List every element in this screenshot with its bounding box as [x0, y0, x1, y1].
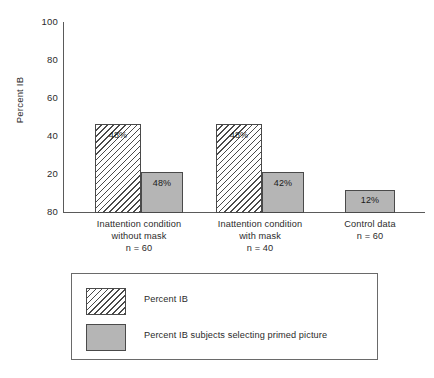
y-tick-label-80: 80 — [28, 55, 58, 65]
category-label-group1: Inattention condition without mask n = 6… — [69, 218, 209, 255]
category-label-group2-line3: n = 40 — [190, 242, 330, 254]
y-tick-label-100: 100 — [28, 17, 58, 27]
legend-label-primed: Percent IB subjects selecting primed pic… — [144, 329, 374, 341]
bar-group2-primed: 42% — [262, 172, 304, 213]
bar-chart-figure: Percent IB 100 80 60 40 20 80 48% 48% 48… — [0, 0, 434, 378]
category-label-group1-line1: Inattention condition — [69, 218, 209, 230]
legend-label-percent-ib: Percent IB — [144, 293, 374, 305]
bar-value-group1-solid: 48% — [142, 178, 182, 188]
category-label-group2: Inattention condition with mask n = 40 — [190, 218, 330, 255]
legend-swatch-solid-icon — [86, 324, 126, 351]
y-tick-label-60: 60 — [28, 93, 58, 103]
y-tick-label-20: 20 — [28, 169, 58, 179]
chart-legend: Percent IB Percent IB subjects selecting… — [71, 273, 378, 360]
bar-group3-primed: 12% — [345, 190, 395, 213]
y-axis-ticks: 100 80 60 40 20 80 — [24, 0, 58, 220]
category-label-group2-line1: Inattention condition — [190, 218, 330, 230]
bar-group2-percent-ib: 48% — [216, 124, 262, 213]
category-label-group1-line2: without mask — [69, 230, 209, 242]
category-label-group1-line3: n = 60 — [69, 242, 209, 254]
category-label-group3-line2: n = 60 — [318, 230, 422, 242]
category-label-group3-line1: Control data — [318, 218, 422, 230]
y-tick-label-40: 40 — [28, 131, 58, 141]
y-axis-line — [63, 22, 64, 213]
bar-group1-percent-ib: 48% — [95, 124, 141, 213]
legend-swatch-hatched-icon — [86, 288, 126, 315]
bar-value-group2-solid: 42% — [263, 178, 303, 188]
bar-value-group1-hatch: 48% — [96, 130, 140, 140]
category-label-group3: Control data n = 60 — [318, 218, 422, 242]
bar-value-group2-hatch: 48% — [217, 130, 261, 140]
y-tick-label-0: 80 — [28, 207, 58, 217]
category-label-group2-line2: with mask — [190, 230, 330, 242]
bar-group1-primed: 48% — [141, 172, 183, 213]
bar-value-group3-solid: 12% — [346, 195, 394, 205]
